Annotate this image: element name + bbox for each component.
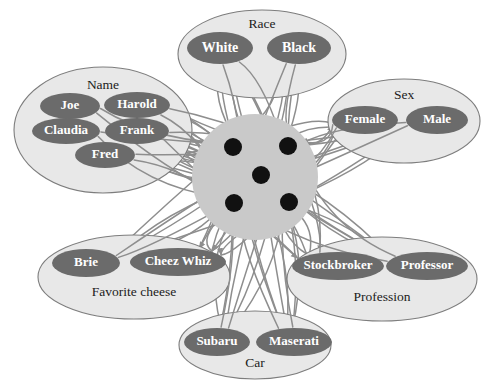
hub-layer <box>192 114 318 240</box>
group-label-cheese: Favorite cheese <box>92 284 176 299</box>
hidden-unit-5[interactable] <box>280 193 298 211</box>
group-cheese[interactable]: Favorite cheese <box>38 235 230 319</box>
group-ellipse-cheese <box>38 235 230 319</box>
node-label-black: Black <box>282 40 316 55</box>
hidden-unit-3[interactable] <box>252 166 270 184</box>
group-label-sex: Sex <box>394 87 415 102</box>
node-black[interactable]: Black <box>267 32 331 64</box>
node-label-frank: Frank <box>120 122 155 137</box>
node-label-male: Male <box>423 111 451 126</box>
node-label-professor: Professor <box>401 257 454 272</box>
node-label-harold: Harold <box>117 96 157 111</box>
node-maserati[interactable]: Maserati <box>256 328 332 356</box>
node-label-claudia: Claudia <box>44 122 89 137</box>
node-joe[interactable]: Joe <box>40 93 100 119</box>
node-label-white: White <box>202 40 239 55</box>
node-white[interactable]: White <box>187 32 253 64</box>
node-label-female: Female <box>345 111 386 126</box>
node-label-stockbroker: Stockbroker <box>303 257 372 272</box>
node-label-fred: Fred <box>92 146 119 161</box>
node-claudia[interactable]: Claudia <box>32 118 100 144</box>
node-subaru[interactable]: Subaru <box>184 328 250 356</box>
node-label-joe: Joe <box>61 97 80 112</box>
group-label-profession: Profession <box>354 289 411 304</box>
node-fred[interactable]: Fred <box>75 142 135 168</box>
node-stockbroker[interactable]: Stockbroker <box>292 252 384 280</box>
node-label-brie: Brie <box>74 254 98 269</box>
hidden-unit-1[interactable] <box>224 138 242 156</box>
node-brie[interactable]: Brie <box>52 249 120 277</box>
node-label-maserati: Maserati <box>269 333 319 348</box>
node-harold[interactable]: Harold <box>104 92 170 118</box>
node-female[interactable]: Female <box>332 106 398 134</box>
hidden-unit-2[interactable] <box>279 137 297 155</box>
node-professor[interactable]: Professor <box>386 252 468 280</box>
diagram-root: RaceNameSexFavorite cheeseProfessionCar … <box>0 0 490 390</box>
node-male[interactable]: Male <box>406 106 468 134</box>
group-label-name: Name <box>87 77 119 92</box>
node-cheez-whiz[interactable]: Cheez Whiz <box>130 248 226 276</box>
hidden-unit-4[interactable] <box>225 194 243 212</box>
node-label-subaru: Subaru <box>196 333 237 348</box>
group-label-race: Race <box>249 16 276 31</box>
node-label-cheez-whiz: Cheez Whiz <box>145 253 212 268</box>
group-label-car: Car <box>245 355 265 370</box>
diagram-canvas: RaceNameSexFavorite cheeseProfessionCar … <box>0 0 490 390</box>
node-frank[interactable]: Frank <box>105 118 169 144</box>
